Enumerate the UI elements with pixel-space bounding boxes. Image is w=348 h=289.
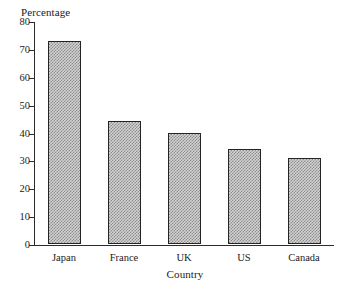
y-tick-label: 50: [20, 99, 31, 112]
bar-france: [108, 121, 141, 244]
y-tick-label: 30: [20, 154, 31, 167]
bar-us: [228, 149, 261, 244]
x-axis-line: [34, 245, 334, 246]
bar-chart: Percentage 01020304050607080 JapanFrance…: [0, 0, 348, 289]
plot-area: 01020304050607080 JapanFranceUKUSCanada: [34, 22, 334, 245]
y-tick-label: 80: [20, 15, 31, 28]
bar-canada: [288, 158, 321, 244]
x-label-us: US: [214, 251, 274, 264]
x-axis-title: Country: [0, 268, 348, 280]
y-tick-label: 60: [20, 71, 31, 84]
y-tick-label: 10: [20, 210, 31, 223]
x-label-france: France: [94, 251, 154, 264]
x-label-canada: Canada: [274, 251, 334, 264]
y-tick-label: 70: [20, 43, 31, 56]
x-label-uk: UK: [154, 251, 214, 264]
y-tick-label: 40: [20, 127, 31, 140]
y-tick-label: 20: [20, 182, 31, 195]
x-label-japan: Japan: [34, 251, 94, 264]
bar-japan: [48, 41, 81, 244]
y-tick-label: 0: [25, 238, 30, 251]
bar-uk: [168, 133, 201, 245]
